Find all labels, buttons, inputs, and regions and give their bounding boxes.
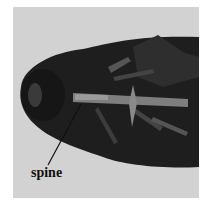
spine-label: spine: [31, 165, 62, 181]
